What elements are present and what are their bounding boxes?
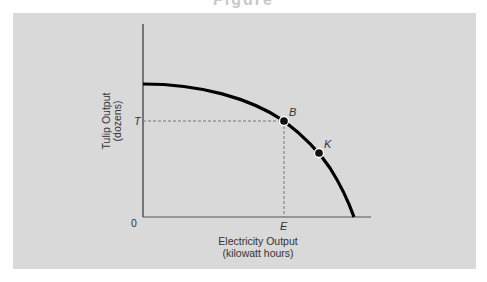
- y-tick-t: T: [134, 115, 142, 127]
- point-b: [280, 117, 289, 126]
- y-axis-label-line2: (dozens): [111, 101, 123, 142]
- origin-label: 0: [131, 217, 137, 229]
- x-tick-e: E: [280, 220, 288, 232]
- point-b-label: B: [289, 106, 296, 118]
- x-axis-label-line1: Electricity Output: [218, 235, 297, 247]
- x-axis-label-line2: (kilowatt hours): [222, 247, 293, 259]
- point-k-label: K: [324, 138, 332, 150]
- ppf-chart: B K T E 0 Electricity Output (kilowatt h…: [0, 0, 487, 282]
- point-k: [315, 149, 324, 158]
